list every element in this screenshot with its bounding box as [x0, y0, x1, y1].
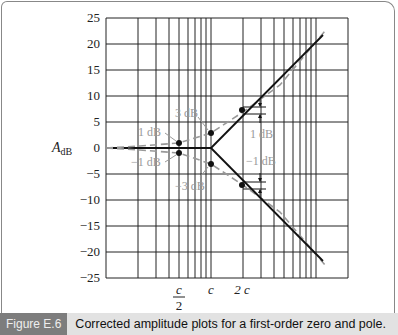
svg-text:−25: −25 — [80, 270, 100, 285]
svg-text:15: 15 — [87, 62, 100, 77]
svg-text:−5: −5 — [86, 166, 100, 181]
caption-text: Corrected amplitude plots for a first-or… — [75, 317, 386, 331]
svg-text:20: 20 — [87, 36, 100, 51]
svg-text:25: 25 — [87, 10, 100, 25]
annotation-3db: 3 dB — [175, 106, 198, 120]
svg-text:10: 10 — [87, 88, 100, 103]
svg-text:0: 0 — [94, 140, 101, 155]
figure-caption: Figure E.6 Corrected amplitude plots for… — [0, 313, 398, 335]
svg-text:−10: −10 — [80, 192, 100, 207]
bode-amplitude-chart: 3 dB 1 dB −1 dB −3 dB 1 dB −1 dB 25 20 1… — [0, 0, 398, 313]
annotation-1db: 1 dB — [138, 125, 161, 139]
svg-text:5: 5 — [94, 114, 101, 129]
svg-text:−15: −15 — [80, 218, 100, 233]
x-tick-c-half-den: 2 — [176, 298, 183, 313]
y-axis-label: AdB — [51, 140, 73, 157]
y-axis-ticks: 25 20 15 10 5 0 −5 −10 −15 −20 −25 — [80, 10, 100, 285]
svg-text:−20: −20 — [80, 244, 100, 259]
x-tick-c-half-num: c — [176, 282, 182, 297]
x-tick-2c: 2 c — [234, 282, 250, 297]
x-axis-ticks: c 2 c 2 c — [173, 282, 250, 313]
x-tick-c: c — [208, 282, 214, 297]
annotation-right-minus-1db: −1 dB — [246, 154, 276, 168]
annotation-right-1db: 1 dB — [250, 127, 273, 141]
annotation-minus-3db: −3 dB — [175, 179, 205, 193]
annotation-minus-1db: −1 dB — [131, 155, 161, 169]
figure-label: Figure E.6 — [0, 313, 67, 335]
